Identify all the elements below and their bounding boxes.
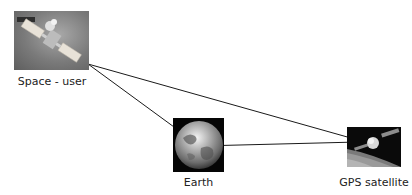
gps-satellite-icon — [347, 127, 401, 167]
gps-satellite-label: GPS satellite — [335, 176, 412, 189]
space-user-label: Space - user — [14, 75, 90, 88]
earth-image — [173, 118, 224, 172]
earth-label: Earth — [173, 176, 224, 189]
space-user-image — [14, 11, 89, 70]
earth-globe-icon — [173, 118, 224, 172]
satellite-icon — [14, 11, 89, 70]
gps-satellite-image — [347, 127, 401, 167]
